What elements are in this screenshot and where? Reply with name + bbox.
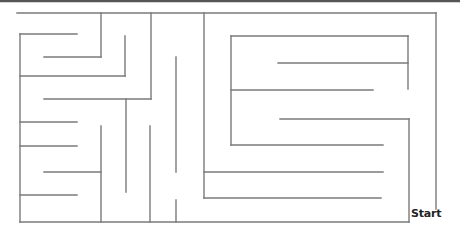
maze-walls: [17, 13, 436, 222]
maze: [0, 0, 460, 234]
start-label: Start: [411, 207, 441, 220]
